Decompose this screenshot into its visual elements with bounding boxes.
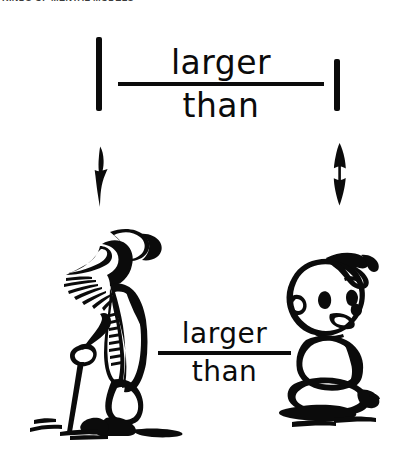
relation-denominator-top: than xyxy=(118,89,324,122)
relation-numerator-top: larger xyxy=(118,46,324,79)
relation-fraction-bottom: larger than xyxy=(158,320,291,386)
tall-bar-left xyxy=(96,37,102,111)
arrow-up-down-icon xyxy=(328,142,352,208)
arrow-down-icon xyxy=(90,146,112,208)
running-header: KINDS OF MENTAL MODELS xyxy=(2,0,202,5)
short-bar-right xyxy=(334,59,340,111)
diagram-canvas: KINDS OF MENTAL MODELS larger than xyxy=(0,0,394,453)
relation-denominator-bottom: than xyxy=(158,358,291,386)
relation-fraction-top: larger than xyxy=(118,46,324,122)
relation-numerator-bottom: larger xyxy=(158,320,291,348)
